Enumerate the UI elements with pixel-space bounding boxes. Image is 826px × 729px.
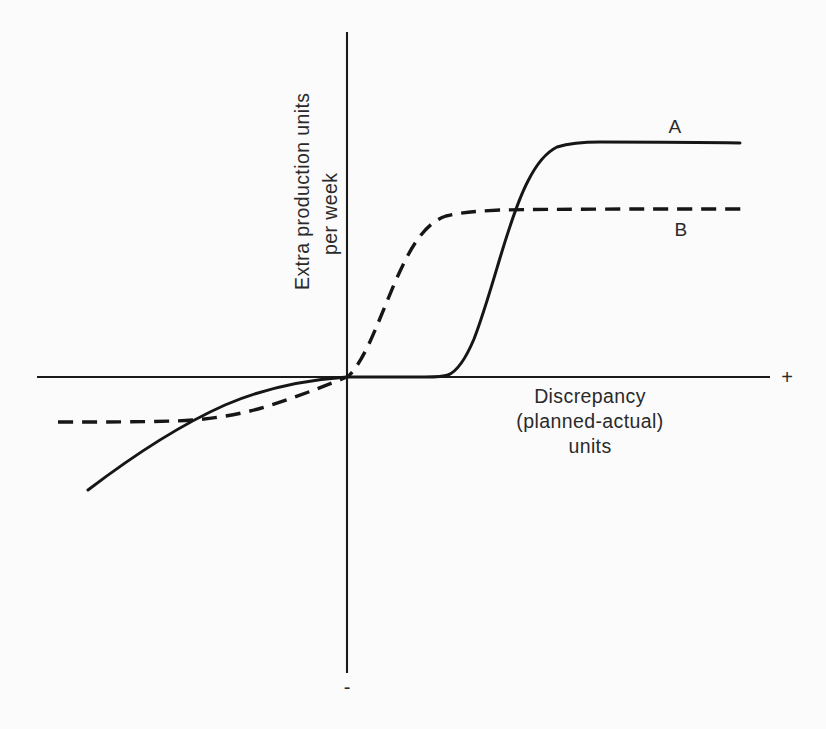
y-axis-label-line-2: per week (319, 173, 341, 255)
chart-canvas: Extra production units per week Discrepa… (0, 0, 826, 729)
y-axis-label-line-1: Extra production units (291, 93, 313, 290)
x-axis-label: Discrepancy (planned-actual) units (516, 385, 663, 457)
series-a-curve (88, 142, 740, 490)
series-b-label: B (675, 219, 688, 240)
x-axis-label-line-3: units (568, 435, 611, 457)
x-axis-label-line-2: (planned-actual) (516, 410, 663, 432)
chart-figure: Extra production units per week Discrepa… (0, 0, 826, 729)
x-axis-label-line-1: Discrepancy (534, 385, 646, 407)
y-axis-negative-sign: - (344, 676, 351, 698)
y-axis-label: Extra production units per week (291, 93, 341, 290)
series-a-label: A (669, 116, 682, 137)
x-axis-positive-sign: + (781, 366, 793, 388)
